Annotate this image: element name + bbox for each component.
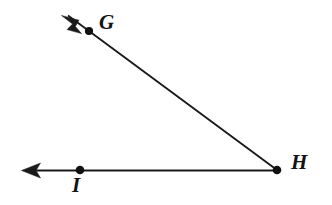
point-dot-h [273, 166, 282, 175]
point-label-i: I [72, 175, 80, 196]
geometry-diagram: G H I [0, 0, 332, 205]
arrow-head-g-icon [62, 16, 82, 34]
ray-hg [62, 16, 278, 171]
point-dot-g [85, 27, 93, 35]
point-label-g: G [99, 12, 114, 33]
ray-hi [22, 163, 278, 178]
ray-hg-line [68, 16, 277, 171]
point-label-h: H [291, 152, 307, 173]
geometry-canvas [0, 0, 332, 205]
